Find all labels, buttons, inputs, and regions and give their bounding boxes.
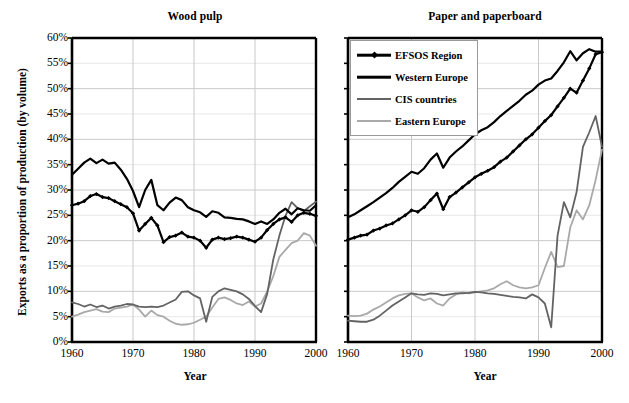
x-tick-label: 1960 (328, 347, 368, 359)
legend-item[interactable]: Eastern Europe (357, 111, 466, 131)
x-axis-title-left: Year (130, 370, 260, 382)
x-axis-title-right: Year (420, 370, 550, 382)
legend-item[interactable]: CIS countries (357, 89, 457, 109)
legend-item[interactable]: Western Europe (357, 67, 468, 87)
x-tick-label: 1960 (52, 347, 92, 359)
x-tick-label: 1970 (392, 347, 432, 359)
legend-swatch-icon (357, 72, 391, 82)
x-tick-label: 1970 (113, 347, 153, 359)
legend-swatch-icon (357, 94, 391, 104)
legend-swatch-icon (357, 116, 391, 126)
legend-label: EFSOS Region (395, 50, 462, 61)
x-tick-label: 1980 (174, 347, 214, 359)
figure-root: Wood pulp Paper and paperboard Exports a… (0, 0, 629, 403)
x-tick-label: 1990 (519, 347, 559, 359)
legend: EFSOS RegionWestern EuropeCIS countriesE… (350, 40, 478, 136)
legend-label: CIS countries (395, 94, 457, 105)
x-tick-label: 1980 (455, 347, 495, 359)
legend-label: Eastern Europe (395, 116, 466, 127)
plot-canvas (0, 0, 629, 403)
legend-item[interactable]: EFSOS Region (357, 45, 462, 65)
x-tick-label: 1990 (235, 347, 275, 359)
legend-label: Western Europe (395, 72, 468, 83)
legend-swatch-icon (357, 50, 391, 60)
x-tick-label: 2000 (582, 347, 622, 359)
